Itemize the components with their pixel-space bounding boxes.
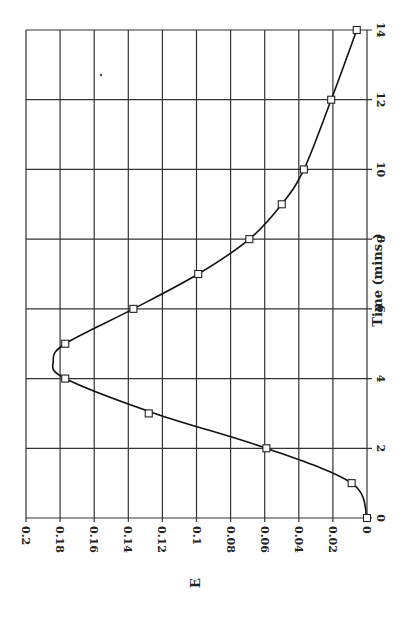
- rotated-line-chart: 00.020.040.060.080.10.120.140.160.180.2 …: [0, 0, 415, 618]
- time-tick-label: 10: [374, 162, 387, 178]
- data-point-marker: [62, 375, 69, 382]
- e-tick-label: 0.18: [53, 526, 66, 553]
- scan-speck: [100, 74, 102, 76]
- data-point-marker: [300, 166, 307, 173]
- data-curve: [53, 30, 367, 518]
- data-point-marker: [278, 201, 285, 208]
- data-point-marker: [364, 515, 371, 522]
- data-point-marker: [145, 410, 152, 417]
- data-point-marker: [130, 305, 137, 312]
- time-tick-label: 0: [374, 514, 387, 522]
- data-point-marker: [328, 96, 335, 103]
- data-point-marker: [62, 340, 69, 347]
- e-axis-ticks: 00.020.040.060.080.10.120.140.160.180.2: [19, 526, 373, 553]
- e-tick-label: 0.06: [258, 526, 271, 553]
- e-tick-label: 0.14: [121, 526, 134, 553]
- data-point-marker: [353, 27, 360, 34]
- e-tick-label: 0.12: [155, 526, 168, 553]
- e-tick-label: 0.02: [326, 526, 339, 553]
- time-tick-label: 4: [374, 375, 387, 383]
- e-tick-label: 0: [360, 526, 373, 534]
- data-markers: [62, 27, 371, 522]
- data-point-marker: [348, 480, 355, 487]
- time-tick-label: 12: [374, 92, 387, 107]
- x-axis-title: Time (mins.): [370, 233, 385, 326]
- data-point-marker: [263, 445, 270, 452]
- e-tick-label: 0.2: [19, 526, 32, 545]
- e-tick-label: 0.1: [190, 526, 203, 545]
- time-tick-label: 14: [374, 22, 387, 38]
- e-tick-label: 0.16: [87, 526, 100, 553]
- e-tick-label: 0.08: [224, 526, 237, 553]
- data-point-marker: [246, 236, 253, 243]
- data-point-marker: [195, 271, 202, 278]
- e-tick-label: 0.04: [292, 526, 305, 553]
- y-axis-title: E: [188, 578, 203, 588]
- time-tick-label: 2: [374, 444, 387, 452]
